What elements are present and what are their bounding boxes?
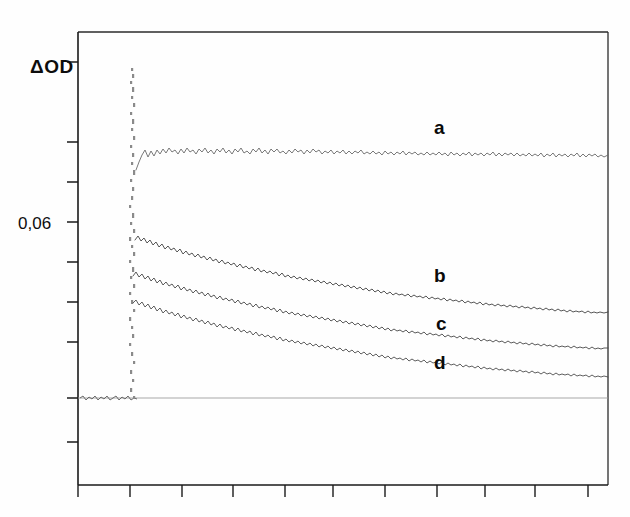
curve-label-b: b [434,265,446,286]
curve-label-d: d [434,352,446,373]
y-axis-label: ΔOD [30,56,74,77]
trace-d [133,300,608,377]
y-axis-ticks [67,62,78,442]
excitation-spike [129,68,135,399]
curve-label-c: c [436,313,447,334]
figure-panel: ΔOD 0,06 [0,0,630,517]
curve-label-a: a [434,117,445,138]
chart-canvas: ΔOD 0,06 [0,0,630,517]
y-tick-label-006: 0,06 [18,214,51,233]
trace-a [136,148,608,170]
trace-c [133,272,608,349]
plot-frame [78,32,608,485]
x-axis-ticks [78,485,588,497]
trace-b [135,236,608,313]
